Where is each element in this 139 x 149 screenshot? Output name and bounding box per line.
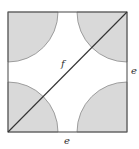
diagonal-label: f bbox=[61, 59, 65, 69]
square-diagram bbox=[0, 0, 139, 149]
bottom-side-label: e bbox=[64, 136, 70, 146]
right-side-label: e bbox=[131, 66, 137, 76]
